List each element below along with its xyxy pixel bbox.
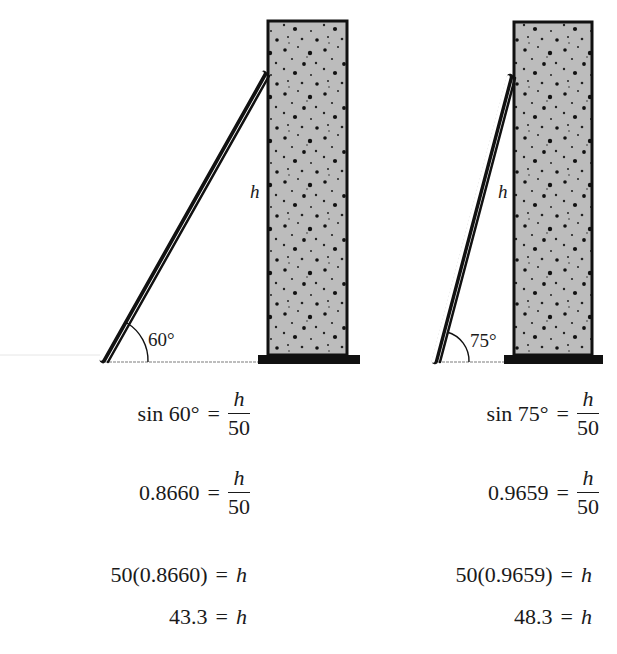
left-scene <box>101 21 360 364</box>
angle-arc-left <box>127 323 148 362</box>
ladder-left <box>101 73 269 362</box>
left-eq1: sin 60° = h 50 <box>138 388 250 439</box>
fraction: h 50 <box>228 467 250 518</box>
wall-base-left <box>258 355 360 364</box>
height-label-right: h <box>498 181 508 203</box>
fraction: h 50 <box>577 388 599 439</box>
angle-arc-right <box>447 332 469 362</box>
left-eq3: 50(0.8660) = h <box>110 562 247 588</box>
wall-base-right <box>504 355 603 364</box>
height-label-left: h <box>250 181 260 203</box>
right-eq2: 0.9659 = h 50 <box>488 467 599 518</box>
fraction: h 50 <box>228 388 250 439</box>
left-eq2: 0.8660 = h 50 <box>139 467 250 518</box>
right-eq3: 50(0.9659) = h <box>455 562 592 588</box>
left-eq4: 43.3 = h <box>169 604 247 630</box>
right-eq1: sin 75° = h 50 <box>487 388 599 439</box>
wall-left <box>268 21 347 355</box>
fraction: h 50 <box>577 467 599 518</box>
wall-right <box>514 22 592 355</box>
ladder-right <box>433 77 515 362</box>
right-scene <box>433 22 603 364</box>
right-eq4: 48.3 = h <box>514 604 592 630</box>
angle-label-right: 75° <box>470 330 497 352</box>
angle-label-left: 60° <box>148 329 175 351</box>
ladder-diagram <box>0 0 617 380</box>
